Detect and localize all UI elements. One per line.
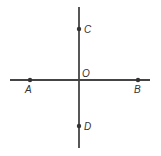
point-D	[77, 124, 81, 128]
label-B: B	[134, 84, 141, 95]
point-A	[28, 78, 32, 82]
label-D: D	[84, 121, 91, 132]
diagram-canvas: A B C D O	[0, 0, 161, 156]
diagram-svg: A B C D O	[0, 0, 161, 156]
label-C: C	[84, 24, 92, 35]
label-O: O	[82, 68, 90, 79]
label-A: A	[24, 84, 32, 95]
point-B	[136, 78, 140, 82]
point-C	[77, 27, 81, 31]
